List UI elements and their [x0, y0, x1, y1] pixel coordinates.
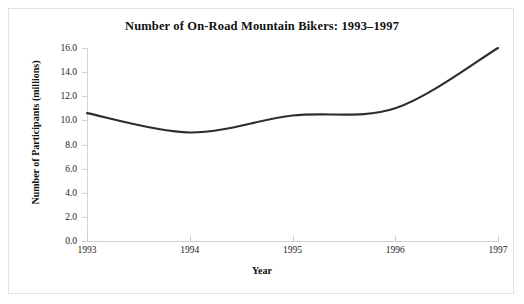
chart-figure: Number of On-Road Mountain Bikers: 1993–…	[8, 8, 514, 294]
series-plot	[9, 9, 515, 295]
series-line-participants	[87, 48, 498, 132]
